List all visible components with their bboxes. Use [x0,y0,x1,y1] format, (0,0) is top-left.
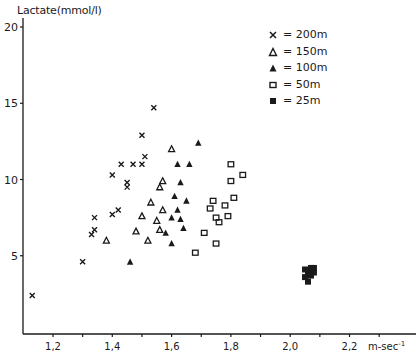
data-point-100m [177,216,183,222]
open-square-icon [268,80,278,90]
data-point-50m [210,198,216,203]
y-tick-label: 10 [4,174,18,187]
data-point-200m [131,162,136,167]
legend-item-50m: = 50m [268,77,327,94]
data-point-200m [92,227,97,232]
data-point-200m [110,212,115,217]
data-point-150m [139,213,145,219]
data-point-150m [103,237,109,243]
x-tick-label: 1,2 [45,341,61,352]
data-point-50m [228,162,234,167]
data-point-200m [125,180,130,185]
data-point-200m [119,162,124,167]
legend-item-25m: = 25m [268,93,327,110]
data-point-200m [110,172,115,177]
data-point-50m [201,230,207,235]
data-point-200m [142,154,147,159]
data-point-50m [228,179,234,184]
data-point-100m [195,139,201,145]
open-triangle-icon [268,47,278,57]
data-point-150m [154,217,160,223]
data-point-100m [180,225,186,231]
data-point-100m [183,197,189,203]
y-tick-label: 5 [11,250,18,263]
filled-triangle-icon [268,63,278,73]
y-tick-label: 20 [4,21,18,34]
data-point-100m [168,240,174,246]
data-point-150m [160,178,166,184]
data-point-50m [222,203,228,208]
data-point-150m [133,228,139,234]
data-point-150m [169,146,175,152]
x-tick-label: 2,2 [342,341,358,352]
data-point-200m [139,133,144,138]
data-point-200m [116,208,121,213]
y-tick-label: 15 [4,97,18,110]
legend: = 200m = 150m = 100m = 50m = 25m [268,27,327,110]
data-point-150m [145,237,151,243]
y-axis-label: Lactate(mmol/l) [17,4,102,17]
data-point-200m [151,105,156,110]
data-point-100m [174,207,180,213]
legend-item-100m: = 100m [268,60,327,77]
data-point-100m [174,161,180,167]
legend-item-200m: = 200m [268,27,327,44]
data-point-50m [193,250,199,255]
legend-item-150m: = 150m [268,44,327,61]
data-point-100m [177,179,183,185]
data-point-150m [148,199,154,205]
data-point-100m [168,214,174,220]
data-point-50m [231,195,237,200]
data-point-150m [157,184,163,190]
data-points [30,105,317,298]
data-point-50m [225,214,231,219]
data-point-100m [171,193,177,199]
data-point-200m [92,215,97,220]
data-point-50m [213,241,219,246]
data-point-200m [30,293,35,298]
x-tick-label: 1,8 [223,341,239,352]
data-point-50m [240,172,246,177]
x-tick-label: 1,4 [104,341,120,352]
data-point-25m [305,279,311,285]
data-point-150m [157,227,163,233]
data-point-100m [127,258,133,264]
data-point-200m [139,162,144,167]
x-tick-label: 1,6 [164,341,180,352]
data-point-200m [80,259,85,264]
filled-square-icon [268,96,278,106]
data-point-50m [207,206,213,211]
data-point-25m [311,265,317,271]
data-point-200m [89,232,94,237]
data-point-150m [160,207,166,213]
data-point-100m [186,161,192,167]
x-tick-label: 2,0 [282,341,298,352]
x-axis-label: m-sec-1 [368,340,405,352]
x-ticks: 1,21,41,61,82,02,2 [45,334,379,352]
scatter-plot: 5101520 1,21,41,61,82,02,2 [0,0,418,353]
data-point-200m [125,185,130,190]
y-ticks: 5101520 [4,21,23,263]
x-marker-icon [268,30,278,40]
